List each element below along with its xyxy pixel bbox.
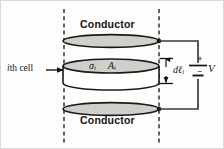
length-symbol: dℓ [173, 64, 182, 75]
conductor-bottom-label: Conductor [80, 115, 135, 126]
conductor-top-label: Conductor [80, 19, 135, 30]
conductivity-label: σi [89, 61, 96, 72]
figure-canvas: Conductor Conductor ith cell σi Ai dℓi +… [0, 0, 224, 149]
battery-minus-sign: − [198, 67, 203, 76]
length-subscript: i [182, 68, 184, 75]
cell-pointer-label: ith cell [7, 64, 33, 74]
voltage-label: V [208, 63, 215, 74]
length-label: dℓi [173, 65, 184, 76]
area-subscript: i [114, 64, 116, 71]
top-wire [159, 41, 198, 63]
cell-pointer-text: th cell [10, 63, 33, 73]
battery-plus-sign: + [198, 55, 203, 64]
conductivity-subscript: i [94, 64, 96, 71]
area-label: Ai [108, 61, 116, 72]
top-conductor-plate [63, 35, 159, 48]
